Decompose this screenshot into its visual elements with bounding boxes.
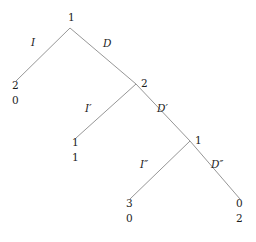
edge-label-I-double-prime: I″ (140, 159, 148, 170)
edge-root-left (16, 28, 70, 81)
leaf-payoff-3: 0 (126, 213, 133, 224)
edge-label-D-prime: D′ (157, 103, 168, 114)
edge-label-D: D (103, 38, 111, 49)
leaf-payoff-4: 2 (236, 213, 243, 224)
node-label-n2: 2 (141, 78, 148, 89)
edge-label-I-prime: I′ (85, 103, 92, 114)
edge-n3-left (130, 141, 190, 199)
edge-n3-right (190, 141, 240, 199)
edge-label-I: I (31, 37, 35, 48)
leaf-value-4: 0 (236, 198, 243, 209)
node-label-n3: 1 (195, 135, 202, 146)
decision-tree-diagram: 1 2 1 I D I′ D′ I″ D″ 2 0 1 1 3 0 0 2 (0, 0, 256, 242)
leaf-payoff-2: 1 (72, 152, 79, 163)
leaf-value-2: 1 (72, 137, 79, 148)
leaf-value-1: 2 (12, 80, 19, 91)
node-label-root: 1 (68, 12, 75, 23)
leaf-payoff-1: 0 (12, 95, 19, 106)
leaf-value-3: 3 (126, 198, 133, 209)
edge-label-D-double-prime: D″ (211, 159, 223, 170)
